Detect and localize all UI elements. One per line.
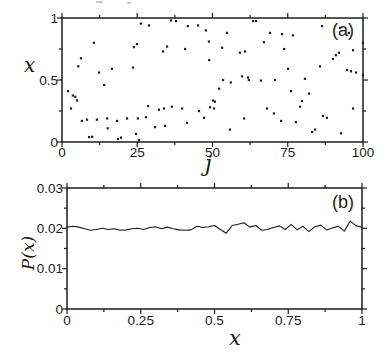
- scatter-point: [107, 127, 109, 129]
- scatter-point: [145, 116, 147, 118]
- x-tick-label: 0.25: [128, 313, 154, 328]
- scatter-point: [76, 99, 78, 101]
- scatter-point: [214, 101, 216, 103]
- x-tick-label: 100: [352, 145, 375, 160]
- scatter-point: [314, 129, 316, 131]
- scatter-point: [218, 88, 220, 90]
- scatter-point: [352, 49, 354, 51]
- scatter-point: [304, 78, 306, 80]
- scatter-point: [70, 107, 72, 109]
- scatter-point: [181, 107, 183, 109]
- scatter-point: [332, 58, 334, 60]
- scatter-point: [111, 68, 113, 70]
- scatter-point: [308, 93, 310, 95]
- scatter-point: [133, 46, 135, 48]
- scatter-point: [229, 129, 231, 131]
- scatter-point: [346, 69, 348, 71]
- axis-ticks: [62, 183, 367, 314]
- axes-frame: [62, 18, 363, 142]
- scatter-point: [162, 50, 164, 52]
- scatter-point: [352, 107, 354, 109]
- scatter-point: [120, 137, 122, 139]
- scatter-point: [266, 107, 268, 109]
- scatter-point: [355, 71, 357, 73]
- scatter-point: [96, 119, 98, 121]
- scatter-point: [326, 117, 328, 119]
- tick-labels: 00.250.50.75100.010.020.03: [37, 181, 366, 329]
- scatter-point: [74, 96, 76, 98]
- scan-speck: [127, 2, 131, 4]
- x-tick-label: 0.5: [205, 313, 224, 328]
- figure: 025507510000.5100.250.50.75100.010.020.0…: [0, 0, 391, 357]
- scatter-point: [186, 122, 188, 124]
- scatter-point: [132, 67, 134, 69]
- scatter-point: [252, 20, 254, 22]
- scatter-point: [350, 70, 352, 72]
- scatter-point: [106, 117, 108, 119]
- scatter-point: [281, 33, 283, 35]
- scatter-point: [247, 76, 249, 78]
- scatter-point: [81, 120, 83, 122]
- scatter-point: [321, 25, 323, 27]
- scatter-point: [226, 32, 228, 34]
- scatter-point: [205, 29, 207, 31]
- scatter-point: [248, 79, 250, 81]
- scatter-point: [274, 79, 276, 81]
- panel-b-x-axis-label: x: [229, 328, 241, 349]
- scatter-point: [244, 50, 246, 52]
- scatter-point: [147, 105, 149, 107]
- y-tick-label: 1: [50, 11, 58, 26]
- scatter-point: [283, 48, 285, 50]
- scatter-point: [138, 139, 140, 141]
- scatter-point: [77, 65, 79, 67]
- scatter-point: [269, 32, 271, 34]
- scatter-point: [340, 132, 342, 134]
- scatter-point: [338, 52, 340, 54]
- scatter-point: [86, 119, 88, 121]
- scatter-point: [170, 19, 172, 21]
- panel-b-tag: (b): [332, 193, 354, 211]
- x-tick-label: 1: [358, 313, 366, 328]
- scatter-point: [197, 24, 199, 26]
- scatter-point: [273, 112, 275, 114]
- axes-frame: [67, 188, 362, 309]
- scatter-point: [335, 54, 337, 56]
- scatter-point: [166, 45, 168, 47]
- scatter-point: [117, 138, 119, 140]
- scatter-point: [98, 71, 100, 73]
- scatter-point: [116, 120, 118, 122]
- scatter-point: [221, 47, 223, 49]
- y-tick-label: 0.5: [39, 73, 58, 88]
- axis-ticks: [57, 13, 368, 147]
- density-line: [67, 221, 362, 233]
- scatter-point: [292, 34, 294, 36]
- scatter-point: [91, 136, 93, 138]
- scatter-point: [213, 107, 215, 109]
- scatter-point: [239, 52, 241, 54]
- scatter-point: [322, 115, 324, 117]
- scatter-point: [241, 75, 243, 77]
- scatter-point: [301, 100, 303, 102]
- scatter-point: [208, 59, 210, 61]
- y-tick-label: 0: [55, 302, 63, 317]
- x-tick-label: 0.75: [275, 313, 301, 328]
- scatter-point: [103, 84, 105, 86]
- scatter-point: [260, 80, 262, 82]
- scatter-point: [80, 57, 82, 59]
- scatter-point: [280, 120, 282, 122]
- scatter-point: [136, 43, 138, 45]
- scatter-point: [208, 40, 210, 42]
- x-tick-label: 0: [58, 145, 66, 160]
- panel-a-tag: (a): [332, 21, 354, 39]
- panel-a-x-axis-label: j: [205, 153, 212, 175]
- scatter-point: [209, 106, 211, 108]
- panel-a: 025507510000.51: [39, 11, 374, 161]
- scatter-point: [67, 90, 69, 92]
- x-tick-label: 0: [63, 313, 71, 328]
- scatter-points: [67, 19, 364, 141]
- scatter-point: [154, 126, 156, 128]
- scatter-point: [299, 106, 301, 108]
- scatter-point: [203, 117, 205, 119]
- scatter-point: [243, 117, 245, 119]
- scatter-point: [137, 117, 139, 119]
